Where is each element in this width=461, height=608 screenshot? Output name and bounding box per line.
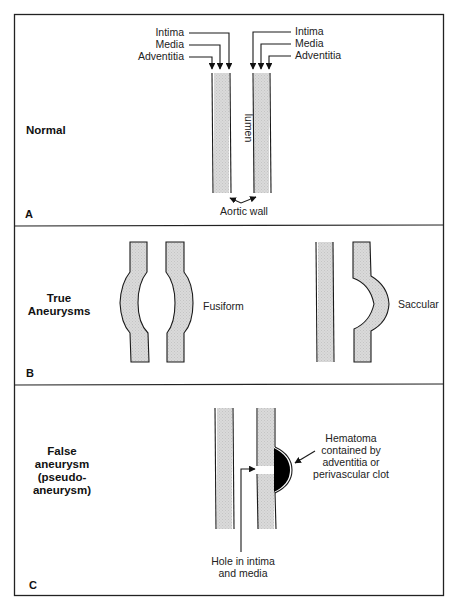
- arrow-hematoma-icon: [295, 451, 315, 463]
- panel-c-title-line4: aneurysm): [33, 484, 91, 496]
- panel-a-title: Normal: [26, 124, 66, 136]
- panel-c-letter: C: [29, 579, 37, 591]
- fusiform-right-wall: [166, 242, 193, 362]
- arrow-adventitia-left-icon: [189, 57, 212, 69]
- panel-a: Normal A Intima Media Adventitia Intima …: [25, 25, 341, 220]
- pseudo-left-outer-line: [215, 408, 216, 529]
- label-hematoma-line2: contained by: [321, 444, 381, 456]
- hematoma-shape: [274, 448, 290, 492]
- label-media-right: Media: [295, 37, 324, 49]
- panel-b-title-line2: Aneurysms: [28, 305, 91, 317]
- normal-left-intima-line: [230, 73, 231, 193]
- normal-left-adventitia-line: [212, 73, 213, 193]
- label-lumen: lumen: [243, 114, 255, 143]
- panel-c-title-line1: False: [47, 445, 76, 457]
- label-hematoma-line3: adventitia or: [322, 456, 380, 468]
- aortic-wall-arrows-icon: [230, 197, 256, 203]
- aneurysm-diagram: Normal A Intima Media Adventitia Intima …: [0, 0, 461, 608]
- arrow-intima-right-icon: [253, 32, 291, 69]
- panel-b-title-line1: True: [47, 292, 71, 304]
- label-intima-left: Intima: [155, 26, 184, 38]
- pseudo-right-outer-line-bottom: [275, 492, 276, 529]
- label-intima-right: Intima: [295, 25, 324, 37]
- label-media-left: Media: [155, 38, 184, 50]
- saccular-left-inner-line: [333, 242, 334, 362]
- label-hematoma-line4: perivascular clot: [313, 468, 389, 480]
- arrow-intima-left-icon: [189, 33, 229, 69]
- normal-right-adventitia-line: [270, 73, 271, 193]
- label-saccular: Saccular: [398, 298, 439, 310]
- label-hole-line1: Hole in intima: [211, 555, 275, 567]
- label-adventitia-right: Adventitia: [295, 49, 341, 61]
- label-hole-line2: and media: [218, 567, 267, 579]
- panel-a-letter: A: [25, 208, 33, 220]
- label-aortic-wall: Aortic wall: [220, 205, 268, 217]
- panel-c: False aneurysm (pseudo- aneurysm) C Hole…: [29, 408, 389, 591]
- label-fusiform: Fusiform: [203, 300, 244, 312]
- panel-c-title-line2: aneurysm: [35, 458, 89, 470]
- pseudo-left-inner-line: [233, 408, 234, 529]
- pseudo-right-inner-line-bottom: [257, 474, 258, 529]
- divider-b-c: [14, 384, 444, 385]
- label-hematoma-line1: Hematoma: [325, 432, 377, 444]
- saccular-right-wall: [353, 242, 389, 362]
- arrow-adventitia-right-icon: [269, 56, 291, 69]
- panel-b-letter: B: [26, 367, 34, 379]
- saccular-left-outer-line: [316, 242, 317, 362]
- divider-a-b: [14, 225, 444, 226]
- label-adventitia-left: Adventitia: [138, 50, 184, 62]
- arrow-hole-icon: [241, 469, 255, 552]
- fusiform-left-wall: [120, 242, 149, 362]
- panel-b: True Aneurysms B Fusiform Saccular: [26, 242, 439, 379]
- panel-c-title-line3: (pseudo-: [38, 471, 87, 483]
